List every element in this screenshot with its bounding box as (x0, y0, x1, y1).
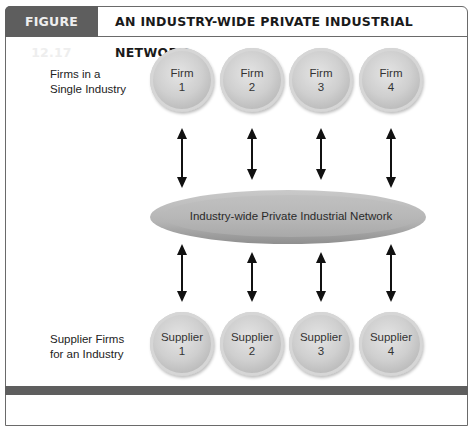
double-arrow-icon (246, 252, 258, 302)
firm-num: 4 (380, 80, 403, 94)
double-arrow-icon (315, 252, 327, 302)
supplier-num: 2 (231, 344, 273, 358)
double-arrow-icon (246, 128, 258, 180)
supplier-name: Supplier (300, 330, 342, 344)
firms-label-line2: Single Industry (50, 82, 126, 97)
firm-node-4: Firm4 (359, 48, 423, 112)
firm-num: 2 (241, 80, 264, 94)
footer-bar (5, 386, 468, 395)
double-arrow-icon (385, 128, 397, 188)
firm-num: 1 (171, 80, 194, 94)
supplier-name: Supplier (370, 330, 412, 344)
firm-name: Firm (310, 66, 333, 80)
supplier-num: 3 (300, 344, 342, 358)
firm-name: Firm (241, 66, 264, 80)
network-label-area: Industry-wide Private Industrial Network (162, 195, 420, 237)
supplier-node-1: Supplier1 (150, 312, 214, 376)
supplier-name: Supplier (231, 330, 273, 344)
double-arrow-icon (385, 244, 397, 302)
figure-title: AN INDUSTRY-WIDE PRIVATE INDUSTRIAL NETW… (115, 6, 473, 37)
suppliers-label-line2: for an Industry (50, 347, 124, 362)
supplier-num: 1 (161, 344, 203, 358)
figure-number: FIGURE 12.17 (5, 6, 98, 37)
supplier-num: 4 (370, 344, 412, 358)
suppliers-label-line1: Supplier Firms (50, 332, 124, 347)
firm-name: Firm (380, 66, 403, 80)
firm-node-3: Firm3 (289, 48, 353, 112)
double-arrow-icon (176, 128, 188, 188)
firm-node-1: Firm1 (150, 48, 214, 112)
supplier-node-2: Supplier2 (220, 312, 284, 376)
firms-label-line1: Firms in a (50, 67, 126, 82)
double-arrow-icon (315, 128, 327, 180)
double-arrow-icon (176, 244, 188, 302)
firms-row-label: Firms in a Single Industry (50, 67, 126, 97)
supplier-node-4: Supplier4 (359, 312, 423, 376)
supplier-name: Supplier (161, 330, 203, 344)
supplier-node-3: Supplier3 (289, 312, 353, 376)
firm-node-2: Firm2 (220, 48, 284, 112)
suppliers-row-label: Supplier Firms for an Industry (50, 332, 124, 362)
firm-name: Firm (171, 66, 194, 80)
network-label: Industry-wide Private Industrial Network (190, 210, 393, 222)
firm-num: 3 (310, 80, 333, 94)
